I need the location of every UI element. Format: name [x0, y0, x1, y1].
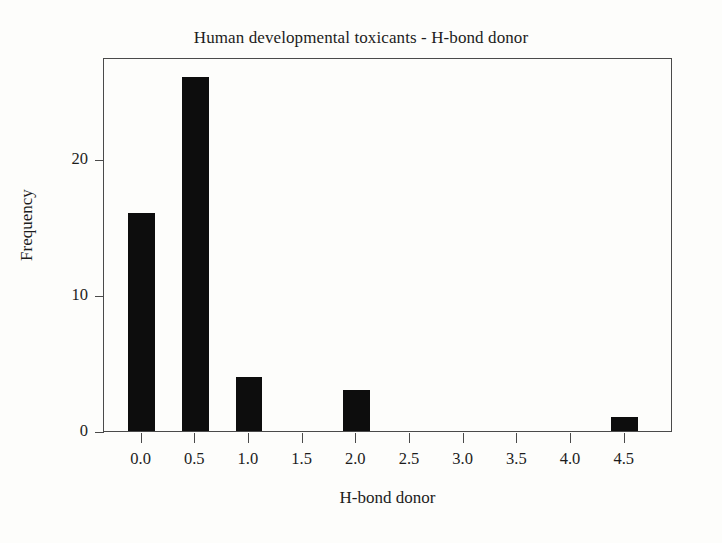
x-axis-tick [194, 433, 195, 443]
y-axis-tick [95, 432, 104, 433]
y-axis-tick [95, 296, 104, 297]
bar [343, 390, 370, 431]
y-axis-tick-label: 10 [28, 285, 88, 305]
x-axis-tick [624, 433, 625, 443]
plot-area [104, 59, 671, 431]
x-axis-tick [409, 433, 410, 443]
bar [236, 377, 263, 431]
x-axis-tick [463, 433, 464, 443]
x-axis-tick [302, 433, 303, 443]
bar [128, 213, 155, 431]
x-axis-tick [248, 433, 249, 443]
x-axis-tick [355, 433, 356, 443]
x-axis-title: H-bond donor [103, 488, 672, 508]
y-axis-tick [95, 160, 104, 161]
bar [611, 417, 638, 431]
bar [182, 77, 209, 431]
x-axis-tick [141, 433, 142, 443]
x-axis-tick-label: 4.5 [589, 449, 659, 469]
x-axis-tick [516, 433, 517, 443]
plot-frame [103, 58, 672, 432]
chart-title: Human developmental toxicants - H-bond d… [0, 28, 722, 48]
figure: Human developmental toxicants - H-bond d… [0, 0, 722, 543]
y-axis-tick-label: 20 [28, 149, 88, 169]
y-axis-tick-label: 0 [28, 421, 88, 441]
x-axis-tick [570, 433, 571, 443]
